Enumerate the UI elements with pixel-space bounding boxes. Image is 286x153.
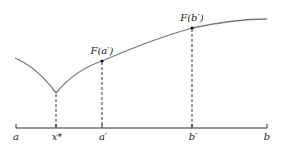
- point-F-b-prime: [190, 26, 193, 29]
- point-F-a-prime: [100, 59, 103, 62]
- label-x-star: x*: [52, 131, 63, 142]
- label-b: b: [264, 131, 270, 142]
- label-F-a-prime: F(a′): [90, 45, 114, 56]
- curve-left-branch: [15, 58, 56, 93]
- label-b-prime: b′: [189, 131, 198, 142]
- label-a-prime: a′: [99, 131, 108, 142]
- label-F-b-prime: F(b′): [179, 12, 204, 23]
- label-a: a: [13, 131, 19, 142]
- diagram-canvas: a x* a′ b′ b F(a′) F(b′): [0, 0, 286, 153]
- curve-right-branch: [56, 19, 267, 93]
